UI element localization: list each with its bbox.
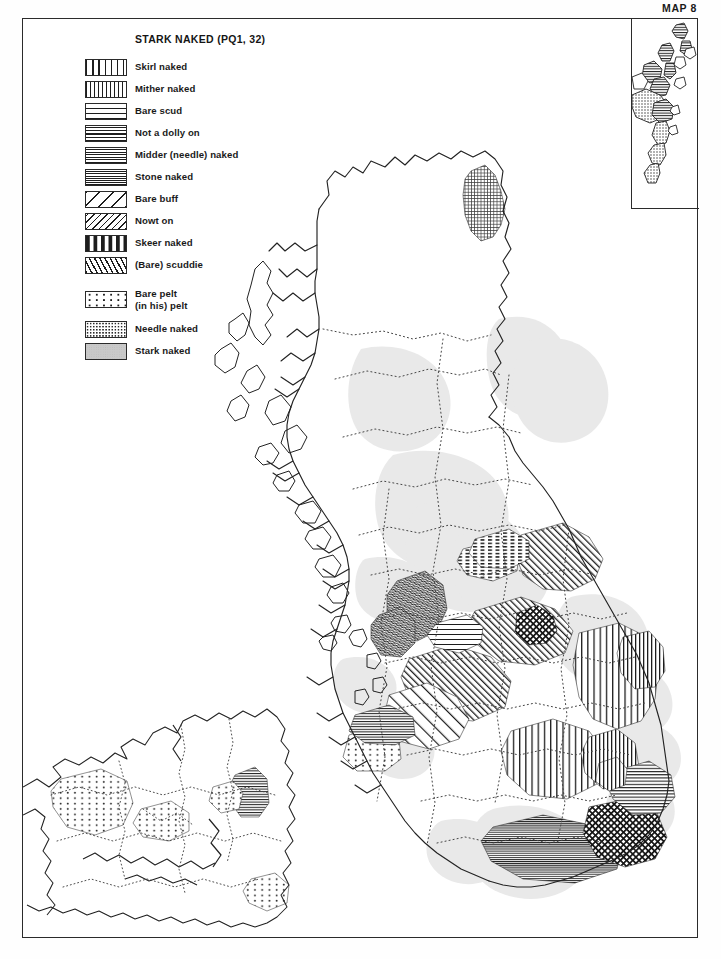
legend-label: Not a dolly on bbox=[135, 127, 200, 139]
swatch-horizontal-lines-close bbox=[85, 147, 127, 164]
legend-label: Skirl naked bbox=[135, 61, 187, 73]
legend-label: Bare buff bbox=[135, 193, 178, 205]
legend-label: Mither naked bbox=[135, 83, 195, 95]
ni-region-dots-fermanagh bbox=[133, 801, 189, 841]
legend-label: Needle naked bbox=[135, 323, 198, 335]
swatch-horizontal-lines-medium bbox=[85, 125, 127, 142]
swatch-light-gray-solid bbox=[85, 343, 127, 360]
northern-ireland-map bbox=[23, 709, 295, 927]
region-crossgrid-caithness bbox=[463, 165, 505, 241]
map-number-label: MAP 8 bbox=[662, 2, 697, 14]
swatch-horizontal-lines-dense bbox=[85, 169, 127, 186]
legend-label-line2: (in his) pelt bbox=[135, 300, 187, 311]
legend-label: Bare scud bbox=[135, 105, 182, 117]
swatch-diagonal-lines-sparse bbox=[85, 191, 127, 208]
swatch-vertical-lines-wide bbox=[85, 59, 127, 76]
swatch-medium-stipple bbox=[85, 321, 127, 338]
ni-region-dots-down bbox=[243, 873, 289, 911]
legend-label: Midder (needle) naked bbox=[135, 149, 238, 161]
legend-label: Nowt on bbox=[135, 215, 174, 227]
swatch-squiggle-texture bbox=[85, 257, 127, 274]
legend-label: Stark naked bbox=[135, 345, 191, 357]
legend-label: Bare pelt (in his) pelt bbox=[135, 288, 187, 311]
legend-label: Stone naked bbox=[135, 171, 193, 183]
swatch-sparse-dots bbox=[85, 291, 127, 308]
legend-title: STARK NAKED (PQ1, 32) bbox=[135, 33, 265, 45]
legend-label: Skeer naked bbox=[135, 237, 193, 249]
map-frame: STARK NAKED (PQ1, 32) Skirl naked Mither… bbox=[22, 18, 698, 938]
shetland-islands bbox=[632, 23, 696, 183]
legend-label: (Bare) scuddie bbox=[135, 259, 203, 271]
swatch-vertical-lines-dense bbox=[85, 81, 127, 98]
page-root: MAP 8 bbox=[0, 0, 721, 959]
islands-hebrides bbox=[215, 261, 387, 705]
swatch-horizontal-lines-wide bbox=[85, 103, 127, 120]
swatch-broken-dashes bbox=[85, 235, 127, 252]
shetland-inset-frame bbox=[631, 19, 699, 209]
swatch-diagonal-lines-dense bbox=[85, 213, 127, 230]
legend-label-line1: Bare pelt bbox=[135, 288, 177, 299]
